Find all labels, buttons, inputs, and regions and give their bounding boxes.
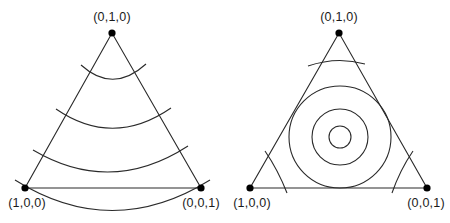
vertex-dot — [197, 184, 204, 191]
contour-circle — [312, 109, 368, 165]
contour-arc — [56, 108, 171, 128]
contour-circle — [329, 126, 351, 148]
contour-arc — [265, 151, 287, 193]
vertex-dot — [335, 29, 342, 36]
vertex-dot — [423, 184, 430, 191]
left-top-vertex-label: (0,1,0) — [93, 10, 131, 24]
right-simplex-panel — [246, 29, 430, 193]
vertex-dot — [108, 29, 115, 36]
simplex-contour-diagram — [0, 0, 450, 223]
left-bottom-right-vertex-label: (0,0,1) — [182, 196, 220, 210]
contour-arc — [33, 146, 188, 172]
vertex-dot — [21, 184, 28, 191]
left-bottom-left-vertex-label: (1,0,0) — [8, 196, 46, 210]
left-simplex-panel — [15, 29, 210, 210]
simplex-triangle — [25, 33, 201, 188]
right-top-vertex-label: (0,1,0) — [320, 10, 358, 24]
vertex-dot — [246, 184, 253, 191]
right-bottom-right-vertex-label: (0,0,1) — [407, 196, 445, 210]
contour-circle — [289, 86, 391, 188]
right-bottom-left-vertex-label: (1,0,0) — [233, 196, 271, 210]
